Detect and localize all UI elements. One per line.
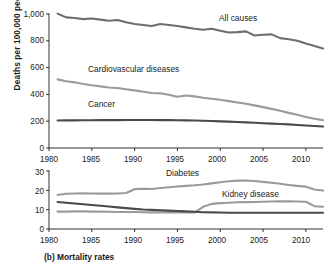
series-all-causes — [58, 14, 323, 49]
series-diabetes — [58, 180, 323, 195]
mortality-rates-figure: Deaths per 100,000 people 1,000 800 600 … — [0, 0, 327, 268]
series-cancer — [58, 120, 323, 127]
bottom-panel-group — [46, 171, 323, 233]
series-cardiovascular-diseases — [58, 79, 323, 120]
plot-canvas — [0, 0, 327, 268]
top-panel-group — [46, 14, 323, 152]
